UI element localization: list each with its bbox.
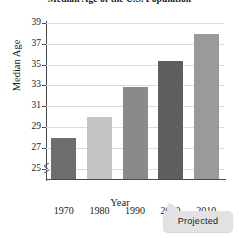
y-tick-label: 31 [32, 101, 42, 111]
y-tick-label: 33 [32, 81, 42, 91]
bar-series [46, 23, 224, 179]
bar-1990 [123, 87, 148, 179]
x-axis-line [46, 179, 226, 180]
y-tick-label: 27 [32, 143, 42, 153]
y-tick-label: 29 [32, 122, 42, 132]
y-axis-label: Median Age [11, 21, 22, 111]
y-tick-label: 25 [32, 164, 42, 174]
y-tick-label: 39 [32, 18, 42, 28]
bar-2010 [194, 34, 219, 179]
median-age-bar-chart: Median Age of the U.S. Population Median… [0, 0, 239, 238]
projected-callout-label: Projected [163, 211, 233, 232]
chart-title: Median Age of the U.S. Population [0, 0, 239, 6]
bar-2000 [158, 61, 183, 179]
projected-callout: Projected [163, 211, 233, 232]
y-tick-label: 37 [32, 39, 42, 49]
plot-area: 2527293133353739 19701980199020002010 [46, 23, 224, 179]
y-tick-label: 35 [32, 60, 42, 70]
bar-1980 [87, 117, 112, 179]
bar-1970 [51, 138, 76, 179]
